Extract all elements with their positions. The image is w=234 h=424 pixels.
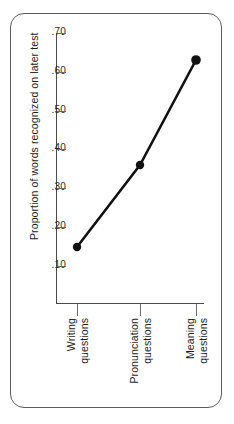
x-category-label-writing: Writing questions (66, 318, 91, 414)
x-category-line: Meaning (185, 318, 196, 359)
chart-plot-area: Proportion of words recognized on later … (0, 0, 234, 424)
x-category-line: Writing (66, 318, 77, 351)
x-category-line: Pronunciation (129, 318, 140, 384)
x-category-line: questions (142, 318, 153, 364)
x-category-line: questions (198, 318, 209, 364)
x-category-line: questions (79, 318, 90, 364)
data-point-marker (191, 55, 201, 65)
x-category-label-meaning: Meaning questions (185, 318, 210, 414)
data-point-marker (136, 161, 144, 169)
x-category-label-pronunciation: Pronunciation questions (129, 318, 154, 414)
data-point-marker (73, 243, 81, 251)
series-line (77, 60, 196, 247)
